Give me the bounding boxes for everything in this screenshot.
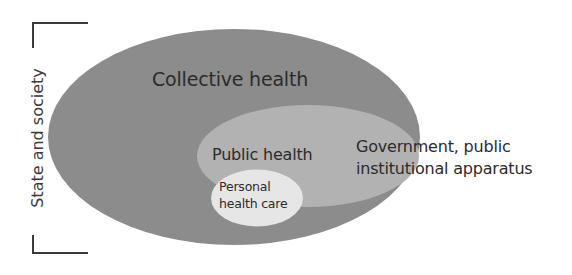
state-and-society-label: State and society (28, 68, 47, 208)
government-label-line1: Government, public (356, 136, 533, 158)
collective-health-label: Collective health (152, 68, 308, 90)
personal-label-line2: health care (219, 195, 299, 212)
health-domains-diagram: Collective health Public health Personal… (0, 0, 572, 275)
government-apparatus-label: Government, public institutional apparat… (356, 136, 533, 180)
personal-label-line1: Personal (219, 178, 299, 195)
personal-health-care-label: Personal health care (219, 178, 299, 212)
public-health-label: Public health (212, 145, 313, 164)
government-label-line2: institutional apparatus (356, 158, 533, 180)
